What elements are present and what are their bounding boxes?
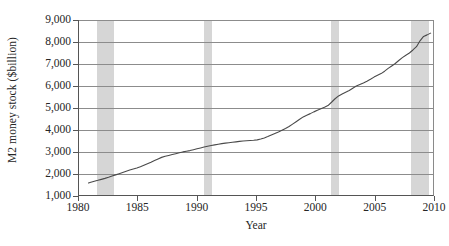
y-axis-tick-label-text: 8,000 bbox=[19, 36, 71, 48]
x-axis-tick-label: 2010 bbox=[404, 201, 449, 214]
y-axis-tick-label-text: 3,000 bbox=[19, 146, 71, 158]
y-axis-tick-label: 4,000 bbox=[0, 124, 71, 136]
y-axis-tick-label-text: 1,000 bbox=[19, 190, 71, 202]
y-axis-tick-label-text: 6,000 bbox=[19, 80, 71, 92]
x-axis-tick-label: 2000 bbox=[285, 201, 345, 214]
y-axis-tick-label-text: 7,000 bbox=[19, 58, 71, 70]
y-axis-tick-label: 3,000 bbox=[0, 146, 71, 158]
y-axis-tick-label: 5,000 bbox=[0, 102, 71, 114]
data-series-line bbox=[79, 20, 433, 195]
x-axis-tick-label: 1995 bbox=[226, 201, 286, 214]
y-axis-tick-label-text: 4,000 bbox=[19, 124, 71, 136]
y-axis-tick-label-text: 5,000 bbox=[19, 102, 71, 114]
y-axis-tick-label: 6,000 bbox=[0, 80, 71, 92]
y-axis-tick-label: 8,000 bbox=[0, 36, 71, 48]
x-axis-tick-label: 1980 bbox=[48, 201, 108, 214]
y-axis-tick-label-text: 2,000 bbox=[19, 168, 71, 180]
chart-figure: M2 money stock ($billion) 1,0002,0003,00… bbox=[0, 0, 449, 246]
x-axis-tick-label: 2005 bbox=[345, 201, 405, 214]
y-axis-tick-label: 9,000 bbox=[0, 14, 71, 26]
x-axis-title: Year bbox=[78, 219, 434, 231]
y-axis-tick-label: 2,000 bbox=[0, 168, 71, 180]
plot-area bbox=[78, 20, 434, 196]
m2-money-stock-line bbox=[88, 33, 430, 183]
y-axis-tick-label-text: 9,000 bbox=[19, 14, 71, 26]
x-axis-tick-label: 1990 bbox=[167, 201, 227, 214]
x-axis-tick-label: 1985 bbox=[107, 201, 167, 214]
y-axis-tick-label: 7,000 bbox=[0, 58, 71, 70]
y-axis-title-text: M2 money stock ($billion) bbox=[6, 37, 18, 163]
